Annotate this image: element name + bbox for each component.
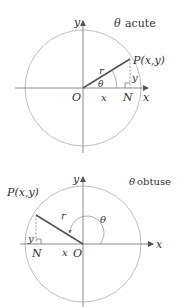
radius-label: r: [61, 210, 67, 221]
adjacent-label: x: [101, 92, 107, 103]
acute-angle-diagram: y θ acute P(x,y) r θ y O x N x: [15, 16, 165, 153]
origin-label: O: [73, 247, 82, 260]
obtuse-angle-diagram: y θ obtuse P(x,y) r θ y N x O x: [6, 173, 171, 307]
angle-label: θ: [98, 79, 104, 89]
angle-label: θ: [100, 214, 106, 225]
opposite-label: y: [131, 72, 138, 83]
radius-line: [83, 59, 130, 88]
right-angle-mark: [36, 239, 41, 244]
caption-symbol: θ: [129, 176, 135, 187]
radius-line: [36, 215, 83, 244]
adjacent-label: x: [62, 247, 68, 258]
caption-text: obtuse: [137, 176, 171, 187]
y-axis-label: y: [72, 173, 80, 186]
caption-symbol: θ: [114, 17, 121, 30]
foot-label: N: [122, 91, 133, 104]
right-angle-mark: [125, 83, 130, 88]
foot-label: N: [31, 247, 42, 260]
y-axis-label: y: [73, 16, 81, 29]
caption-text: acute: [125, 17, 156, 30]
point-label: P(x,y): [6, 186, 39, 199]
x-axis-label: x: [156, 238, 163, 251]
point-label: P(x,y): [132, 54, 165, 67]
unit-circle-figure: y θ acute P(x,y) r θ y O x N x y θ obtus…: [0, 0, 186, 307]
opposite-label: y: [27, 233, 34, 244]
x-axis-label: x: [143, 91, 150, 104]
angle-arc: [112, 70, 117, 88]
origin-label: O: [72, 91, 81, 104]
